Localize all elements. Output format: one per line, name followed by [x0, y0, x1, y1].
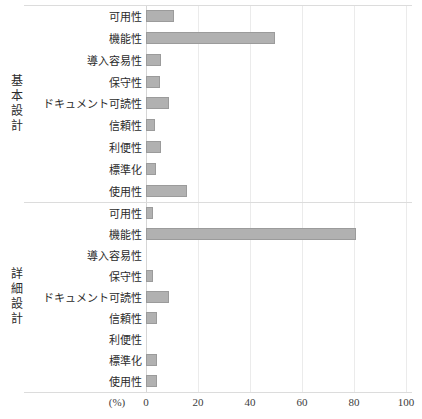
category-label: 導入容易性 [0, 247, 146, 263]
x-tick-label: 0 [129, 396, 163, 408]
bar-track [146, 312, 412, 324]
bar-row: ドキュメント可読性 [0, 286, 412, 307]
bar-track [146, 333, 412, 345]
bar-track [146, 10, 412, 22]
bar-row: 機能性 [0, 27, 412, 48]
bar-track [146, 291, 412, 303]
category-label: 標準化 [0, 161, 146, 177]
category-label: 機能性 [0, 226, 146, 242]
bar-group: 可用性機能性導入容易性保守性ドキュメント可読性信頼性利便性標準化使用性 [0, 5, 412, 202]
bar-row: 使用性 [0, 180, 412, 201]
bar-track [146, 163, 412, 175]
x-tick-label: 100 [389, 396, 422, 408]
category-label: 利便性 [0, 139, 146, 155]
bar-row: 保守性 [0, 265, 412, 286]
category-label: 標準化 [0, 352, 146, 368]
bar [146, 32, 275, 44]
bar-track [146, 270, 412, 282]
bar-track [146, 375, 412, 387]
bar-track [146, 354, 412, 366]
bar-row: 信頼性 [0, 115, 412, 136]
bar [146, 119, 155, 131]
category-label: 可用性 [0, 205, 146, 221]
axis-baseline [24, 392, 412, 393]
bar-track [146, 249, 412, 261]
x-tick-label: 60 [285, 396, 319, 408]
bar-row: ドキュメント可読性 [0, 93, 412, 114]
bar-track [146, 54, 412, 66]
bar [146, 270, 153, 282]
bar-row: 保守性 [0, 71, 412, 92]
bar-track [146, 228, 412, 240]
axis-unit-label: (%) [100, 396, 134, 408]
bar [146, 312, 157, 324]
bar-row: 利便性 [0, 137, 412, 158]
bar [146, 185, 187, 197]
bar-row: 導入容易性 [0, 49, 412, 70]
category-label: 機能性 [0, 30, 146, 46]
x-tick-label: 40 [233, 396, 267, 408]
bar-row: 可用性 [0, 5, 412, 26]
bar-row: 機能性 [0, 223, 412, 244]
bar [146, 375, 157, 387]
bar [146, 76, 160, 88]
bar-track [146, 119, 412, 131]
group-label: 基本設計 [7, 74, 24, 134]
bar-row: 標準化 [0, 159, 412, 180]
bar [146, 163, 156, 175]
bar-track [146, 97, 412, 109]
bar-track [146, 207, 412, 219]
bar-track [146, 185, 412, 197]
bar [146, 228, 356, 240]
bar [146, 354, 157, 366]
bar-track [146, 76, 412, 88]
x-tick-label: 80 [337, 396, 371, 408]
category-label: 使用性 [0, 183, 146, 199]
category-label: 利便性 [0, 331, 146, 347]
bar-row: 利便性 [0, 329, 412, 350]
bar-row: 標準化 [0, 350, 412, 371]
bar [146, 54, 161, 66]
bar-row: 使用性 [0, 371, 412, 392]
bar-row: 可用性 [0, 202, 412, 223]
bar [146, 10, 174, 22]
bar [146, 207, 153, 219]
bar [146, 97, 169, 109]
bar-row: 信頼性 [0, 308, 412, 329]
bar-track [146, 32, 412, 44]
x-tick-label: 20 [181, 396, 215, 408]
category-label: 使用性 [0, 373, 146, 389]
grouped-bar-chart: 可用性機能性導入容易性保守性ドキュメント可読性信頼性利便性標準化使用性基本設計可… [0, 0, 422, 419]
category-label: 可用性 [0, 8, 146, 24]
category-label: 導入容易性 [0, 52, 146, 68]
bar-row: 導入容易性 [0, 244, 412, 265]
bar [146, 141, 161, 153]
group-label: 詳細設計 [7, 267, 24, 327]
bar-track [146, 141, 412, 153]
bar [146, 291, 169, 303]
bar-group: 可用性機能性導入容易性保守性ドキュメント可読性信頼性利便性標準化使用性 [0, 202, 412, 392]
